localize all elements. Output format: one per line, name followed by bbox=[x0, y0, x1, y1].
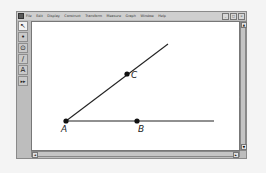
point-b[interactable] bbox=[134, 118, 139, 123]
point-label-a[interactable]: A bbox=[60, 124, 67, 134]
stray-dot bbox=[239, 96, 241, 98]
geometry-layer: ABC bbox=[0, 0, 266, 173]
point-a[interactable] bbox=[63, 118, 68, 123]
point-label-c[interactable]: C bbox=[131, 70, 138, 80]
point-c[interactable] bbox=[124, 71, 129, 76]
point-label-b[interactable]: B bbox=[138, 124, 144, 134]
ray-ac[interactable] bbox=[66, 44, 168, 121]
